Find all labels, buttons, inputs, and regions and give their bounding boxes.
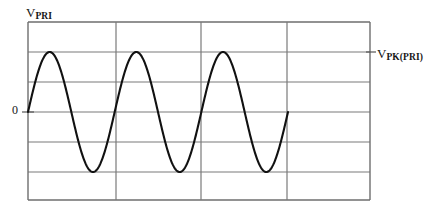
peak-voltage-label: VPK(PRI) bbox=[377, 45, 423, 63]
y-axis-label-subscript: PRI bbox=[35, 11, 52, 21]
grid-vertical-lines bbox=[28, 22, 370, 200]
zero-baseline-label: 0 bbox=[12, 104, 18, 116]
peak-voltage-label-base: V bbox=[377, 46, 386, 61]
waveform-plot bbox=[0, 0, 424, 214]
y-axis-label: VPRI bbox=[26, 4, 52, 22]
waveform-figure: VPRI VPK(PRI) 0 bbox=[0, 0, 424, 214]
y-axis-label-base: V bbox=[26, 5, 35, 20]
grid-horizontal-lines bbox=[28, 22, 370, 200]
peak-voltage-label-subscript: PK(PRI) bbox=[386, 52, 423, 62]
